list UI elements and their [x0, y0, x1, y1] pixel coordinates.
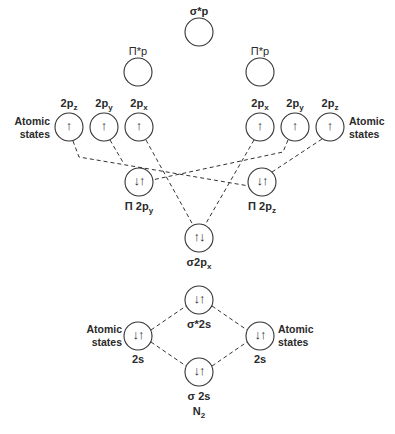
- electrons-left-2pz: ↑: [66, 120, 73, 132]
- label-left-2py: 2py: [95, 97, 112, 114]
- atomic-states-right-2p: Atomicstates: [349, 115, 385, 141]
- molecule-label: N2: [193, 405, 205, 422]
- electrons-right-2s: ↓↑: [255, 329, 266, 341]
- orbital-pi-star-p-right: [246, 58, 274, 86]
- electrons-sigma-2px: ↑↓: [194, 231, 205, 243]
- label-right-2py: 2py: [286, 97, 303, 114]
- orbital-pi-star-p-left: [124, 58, 152, 86]
- label-left-2s: 2s: [132, 353, 144, 365]
- orbital-sigma-star-p: [185, 18, 213, 46]
- label-right-2pz: 2pz: [322, 97, 339, 114]
- mo-diagram: ↑ ↑ ↑ ↑ ↑ ↑ ↓↑ ↓↑ ↑↓ ↓↑ ↓↑ ↓↑ ↓↑ σ*p Π*p…: [0, 0, 395, 434]
- label-sigma-2s: σ 2s: [188, 390, 211, 402]
- atomic-states-right-2s: Atomicstates: [278, 323, 314, 349]
- label-sigma-star-2s: σ*2s: [187, 318, 211, 330]
- label-left-2pz: 2pz: [61, 97, 78, 114]
- electrons-left-2s: ↓↑: [133, 329, 144, 341]
- electrons-sigma-star-2s: ↓↑: [194, 293, 205, 305]
- electrons-right-2py: ↑: [292, 120, 299, 132]
- electrons-right-2pz: ↑: [327, 120, 334, 132]
- label-pi-2py: Π 2py: [125, 200, 153, 217]
- label-pi-star-p-left: Π*p: [129, 45, 147, 57]
- label-pi-2pz: Π 2pz: [248, 200, 276, 217]
- label-right-2s: 2s: [254, 353, 266, 365]
- electrons-left-2py: ↑: [101, 120, 108, 132]
- atomic-states-left-2s: Atomicstates: [82, 323, 122, 349]
- electrons-right-2px: ↑: [257, 120, 264, 132]
- label-right-2px: 2px: [251, 97, 268, 114]
- atomic-states-left-2p: Atomicstates: [10, 115, 50, 141]
- label-sigma-star-p: σ*p: [190, 5, 209, 17]
- electrons-pi-2pz: ↓↑: [257, 175, 268, 187]
- electrons-pi-2py: ↓↑: [134, 175, 145, 187]
- label-sigma-2px: σ2px: [187, 256, 212, 273]
- label-left-2px: 2px: [130, 97, 147, 114]
- label-pi-star-p-right: Π*p: [251, 45, 269, 57]
- electrons-left-2px: ↑: [136, 120, 143, 132]
- electrons-sigma-2s: ↓↑: [194, 365, 205, 377]
